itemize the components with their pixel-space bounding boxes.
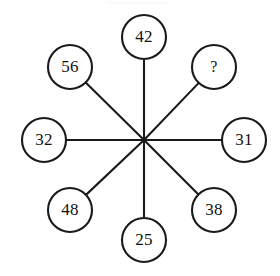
spoke-bottom-right <box>144 140 198 194</box>
node-bottom-left-label: 48 <box>61 200 78 219</box>
node-left-label: 32 <box>35 130 52 149</box>
node-top-left-label: 56 <box>61 57 78 76</box>
spoke-bottom-left <box>86 140 144 195</box>
node-bottom-right-label: 38 <box>205 200 222 219</box>
node-top-right-label: ? <box>210 58 217 75</box>
node-right-label: 31 <box>235 130 252 149</box>
radial-spoke-diagram: 42?313825483256 <box>0 0 280 276</box>
node-bottom-label: 25 <box>135 230 152 249</box>
node-top-label: 42 <box>135 27 152 46</box>
scan-artifact <box>106 1 168 4</box>
puzzle-figure: 42?313825483256 <box>0 0 280 276</box>
spoke-top-left <box>86 82 144 140</box>
spoke-top-right <box>144 83 199 140</box>
